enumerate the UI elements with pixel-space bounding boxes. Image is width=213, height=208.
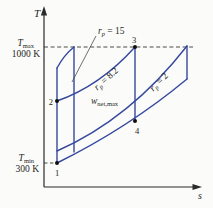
brayton-cycles bbox=[57, 46, 187, 163]
ts-diagram-figure: T s Tmax 1000 K Tmin 300 K rp = 15 rp = … bbox=[0, 0, 213, 208]
pmin-heat-rejection-curve bbox=[57, 79, 187, 163]
tmin-symbol-label: Tmin bbox=[19, 153, 35, 164]
state-point-4-dot bbox=[133, 119, 137, 123]
state-point-1-label: 1 bbox=[55, 168, 59, 178]
y-axis-arrow-icon bbox=[41, 6, 47, 16]
state-point-4-label: 4 bbox=[135, 126, 140, 136]
wnet-max-label: wnet,max bbox=[91, 96, 119, 107]
state-point-3-label: 3 bbox=[132, 35, 136, 45]
state-point-2-label: 2 bbox=[49, 97, 53, 107]
rp15-label: rp = 15 bbox=[98, 26, 125, 37]
tmin-value-label: 300 K bbox=[16, 164, 40, 174]
ts-diagram-canvas: T s Tmax 1000 K Tmin 300 K rp = 15 rp = … bbox=[0, 0, 213, 208]
rp82-label: rp = 8.2 bbox=[92, 65, 121, 92]
state-point-2-dot bbox=[55, 99, 59, 103]
rp15-leader-line bbox=[72, 36, 96, 82]
rp2-label: rp = 2 bbox=[148, 70, 171, 93]
rp15-heat-addition-curve bbox=[57, 47, 74, 68]
tmax-symbol-label: Tmax bbox=[18, 38, 35, 49]
tmax-value-label: 1000 K bbox=[12, 49, 40, 59]
rp2-heat-addition-curve bbox=[57, 46, 187, 151]
rp82-heat-addition-curve bbox=[57, 47, 135, 101]
x-axis-label: s bbox=[198, 190, 202, 201]
state-point-3-dot bbox=[133, 45, 137, 49]
state-point-1-dot bbox=[55, 161, 59, 165]
y-axis-label: T bbox=[34, 7, 41, 19]
